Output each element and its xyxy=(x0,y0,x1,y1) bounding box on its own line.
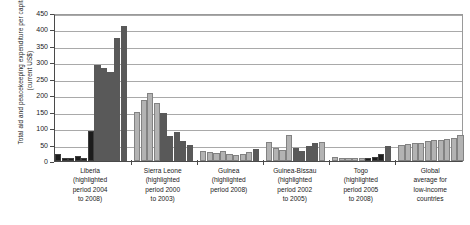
bar xyxy=(286,135,292,161)
group-separator-tick xyxy=(197,160,198,165)
caption-line: average for xyxy=(383,175,470,184)
bar xyxy=(293,148,299,161)
chart-root: Total aid and peacekeeping expenditure p… xyxy=(0,0,470,225)
group-separator-tick xyxy=(395,160,396,165)
bar xyxy=(385,146,391,161)
bar xyxy=(174,132,180,161)
bar xyxy=(273,148,279,161)
bar xyxy=(233,155,239,161)
caption-line: low-income xyxy=(383,185,470,194)
bar xyxy=(187,145,193,161)
bar xyxy=(68,158,74,161)
bar xyxy=(226,154,232,161)
bar xyxy=(359,158,365,161)
y-axis-tick-mark xyxy=(50,129,54,130)
caption-line: Global xyxy=(383,166,470,175)
bar xyxy=(55,154,61,161)
bar xyxy=(180,141,186,161)
bar xyxy=(141,100,147,161)
bar xyxy=(160,113,166,161)
bar xyxy=(253,149,259,161)
bar xyxy=(339,158,345,161)
bar xyxy=(114,38,120,161)
bar xyxy=(378,154,384,161)
bar xyxy=(345,158,351,161)
y-axis-tick-mark xyxy=(50,30,54,31)
bar xyxy=(134,112,140,161)
bar xyxy=(154,103,160,161)
bar xyxy=(147,93,153,161)
group-caption: Globalaverage forlow-incomecountries xyxy=(383,166,470,203)
y-axis-tick-label: 0 xyxy=(20,158,48,165)
y-axis-tick-label: 150 xyxy=(20,109,48,116)
bar xyxy=(220,151,226,161)
bar xyxy=(425,141,431,161)
bar xyxy=(121,26,127,162)
group-separator-tick xyxy=(329,160,330,165)
bar xyxy=(412,143,418,161)
bar xyxy=(101,68,107,161)
bar xyxy=(319,142,325,161)
bar xyxy=(372,157,378,161)
bar xyxy=(107,72,113,161)
bar xyxy=(332,157,338,161)
group-separator-tick xyxy=(131,160,132,165)
group-separator-tick xyxy=(263,160,264,165)
y-axis-tick-label: 400 xyxy=(20,26,48,33)
y-axis-tick-label: 450 xyxy=(20,10,48,17)
bar xyxy=(352,158,358,161)
bar xyxy=(246,152,252,161)
y-axis-tick-mark xyxy=(50,47,54,48)
bar xyxy=(405,144,411,161)
bar xyxy=(451,138,457,161)
bar xyxy=(266,142,272,161)
bar xyxy=(365,158,371,161)
bar xyxy=(94,65,100,161)
y-axis-tick-label: 300 xyxy=(20,59,48,66)
plot-area xyxy=(54,14,463,162)
bar xyxy=(279,150,285,161)
caption-line: to 2003) xyxy=(119,194,206,203)
y-axis-tick-mark xyxy=(50,113,54,114)
y-axis-tick-mark xyxy=(50,162,54,163)
y-axis-tick-label: 250 xyxy=(20,76,48,83)
bar xyxy=(418,143,424,161)
bar xyxy=(200,151,206,161)
y-axis-tick-label: 50 xyxy=(20,142,48,149)
bar xyxy=(167,136,173,161)
bar xyxy=(431,140,437,161)
bar xyxy=(438,140,444,161)
y-axis-tick-label: 100 xyxy=(20,125,48,132)
bar-series xyxy=(55,15,462,161)
y-axis-tick-label: 350 xyxy=(20,43,48,50)
bar xyxy=(240,154,246,161)
bar xyxy=(398,145,404,161)
bar xyxy=(81,158,87,161)
bar xyxy=(207,152,213,161)
y-axis-tick-mark xyxy=(50,96,54,97)
bar xyxy=(457,135,463,161)
y-axis-tick-mark xyxy=(50,14,54,15)
bar xyxy=(75,156,81,161)
x-axis-group-captions: Liberia(highlightedperiod 2004to 2008)Si… xyxy=(54,166,463,224)
bar xyxy=(306,146,312,161)
bar xyxy=(88,131,94,161)
caption-line: countries xyxy=(383,194,470,203)
bar xyxy=(299,151,305,161)
bar xyxy=(213,153,219,161)
y-axis-tick-mark xyxy=(50,146,54,147)
bar xyxy=(444,139,450,161)
y-axis-tick-mark xyxy=(50,80,54,81)
bar xyxy=(312,143,318,161)
y-axis-tick-mark xyxy=(50,63,54,64)
bar xyxy=(62,158,68,161)
y-axis-tick-label: 200 xyxy=(20,92,48,99)
